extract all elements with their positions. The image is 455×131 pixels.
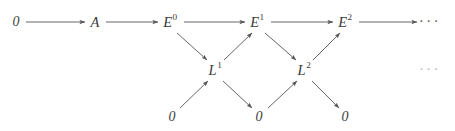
diagram-arrows-layer: [0, 0, 455, 131]
arrow-e1-to-l2: [265, 33, 296, 60]
arrow-l2-to-zero: [312, 81, 339, 108]
arrow-l1-to-zero: [223, 81, 252, 108]
arrow-l2-to-e2: [313, 33, 340, 60]
arrow-l1-to-e1: [224, 33, 252, 60]
commutative-diagram-figure: 0 A E0 E1 E2 L1 L2 0 0 0 ··· ···: [0, 0, 455, 131]
arrow-e0-to-l1: [177, 33, 207, 60]
arrow-group: [26, 22, 417, 108]
arrow-zero-to-l1: [180, 81, 208, 108]
arrow-zero-to-l2: [268, 81, 297, 108]
